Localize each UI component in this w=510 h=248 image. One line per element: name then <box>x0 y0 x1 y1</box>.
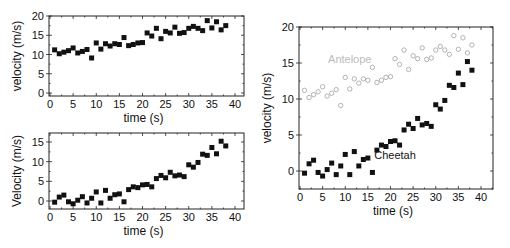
data-point <box>461 36 465 40</box>
data-point <box>393 138 398 143</box>
y-tick-label: 0 <box>288 165 294 177</box>
data-point <box>131 42 136 47</box>
data-point <box>159 36 164 41</box>
data-point <box>307 95 311 99</box>
data-point <box>356 163 361 168</box>
data-point <box>112 41 117 46</box>
series-antelope <box>52 18 228 60</box>
data-point <box>307 161 312 166</box>
data-point <box>438 107 443 112</box>
data-point <box>429 56 433 60</box>
x-tick-label: 30 <box>183 211 195 223</box>
data-point <box>347 172 352 177</box>
data-point <box>85 47 90 52</box>
data-point <box>447 83 452 88</box>
data-point <box>379 143 384 148</box>
data-point <box>316 170 321 175</box>
data-point <box>302 171 307 176</box>
data-point <box>66 199 71 204</box>
data-point <box>343 75 347 79</box>
data-point <box>80 49 85 54</box>
x-tick-label: 20 <box>136 98 148 110</box>
data-point <box>357 81 361 85</box>
data-point <box>343 152 348 157</box>
data-point <box>366 78 370 82</box>
data-point <box>112 192 117 197</box>
data-point <box>182 174 187 179</box>
data-point <box>425 57 429 61</box>
y-tick-label: 15 <box>32 136 44 148</box>
data-point <box>66 48 71 53</box>
data-point <box>388 139 393 144</box>
x-tick-label: 0 <box>47 211 53 223</box>
data-point <box>361 157 366 162</box>
data-point <box>460 82 465 87</box>
data-point <box>126 43 131 48</box>
data-point <box>135 185 140 190</box>
data-point <box>316 90 320 94</box>
data-point <box>61 193 66 198</box>
data-point <box>370 65 374 69</box>
data-point <box>411 54 415 58</box>
data-point <box>117 191 122 196</box>
data-point <box>383 144 388 149</box>
data-point <box>329 91 333 95</box>
data-point <box>126 187 131 192</box>
y-tick-label: 10 <box>32 49 44 61</box>
data-point <box>85 200 90 205</box>
data-point <box>172 25 177 30</box>
data-point <box>108 44 113 49</box>
data-point <box>57 51 62 56</box>
x-tick-label: 5 <box>320 191 326 203</box>
data-point <box>140 40 145 45</box>
x-axis-label: time (s) <box>373 204 413 218</box>
plot-frame <box>49 133 244 209</box>
data-point <box>131 184 136 189</box>
x-tick-label: 10 <box>339 191 351 203</box>
data-point <box>94 189 99 194</box>
data-point <box>52 200 57 205</box>
x-tick-label: 30 <box>183 98 195 110</box>
x-tick-label: 5 <box>70 211 76 223</box>
data-point <box>103 41 108 46</box>
series-cheetah <box>52 139 228 207</box>
data-point <box>375 80 379 84</box>
data-point <box>447 52 451 56</box>
data-point <box>140 182 145 187</box>
x-tick-label: 5 <box>70 98 76 110</box>
chart-bottom-left-cheetah: 0510152025303540051015time (s)Velocity (… <box>10 133 244 238</box>
data-point <box>191 165 196 170</box>
data-point <box>196 160 201 165</box>
data-point <box>149 184 154 189</box>
data-point <box>470 43 474 47</box>
x-tick-label: 40 <box>475 191 487 203</box>
x-tick-label: 0 <box>47 98 53 110</box>
data-point <box>388 74 392 78</box>
x-tick-label: 15 <box>113 211 125 223</box>
data-point <box>456 71 461 76</box>
data-point <box>163 175 168 180</box>
data-point <box>465 59 470 64</box>
data-point <box>89 196 94 201</box>
data-point <box>406 67 410 71</box>
data-point <box>402 127 407 132</box>
data-point <box>329 161 334 166</box>
y-tick-label: 0 <box>38 195 44 207</box>
data-point <box>338 163 343 168</box>
data-point <box>172 173 177 178</box>
x-tick-label: 15 <box>113 98 125 110</box>
data-point <box>302 88 306 92</box>
x-tick-label: 10 <box>90 211 102 223</box>
data-point <box>443 48 447 52</box>
y-axis-label: velocity (m/s) <box>10 21 24 92</box>
y-tick-label: 10 <box>282 93 294 105</box>
x-tick-label: 25 <box>160 98 172 110</box>
x-tick-label: 0 <box>297 191 303 203</box>
data-point <box>433 102 438 107</box>
data-point <box>452 33 456 37</box>
data-point <box>196 26 201 31</box>
y-axis-label: Velocity (m/s) <box>10 135 24 207</box>
data-point <box>219 27 224 32</box>
annotation-antelope: Antelope <box>328 53 371 65</box>
data-point <box>117 42 122 47</box>
